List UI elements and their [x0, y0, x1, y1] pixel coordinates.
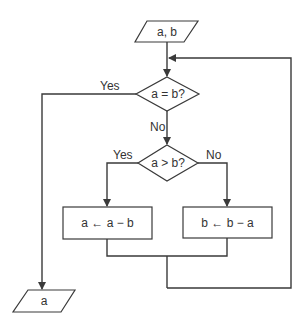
input-node: a, b [135, 21, 198, 42]
decision-greater-label: a > b? [151, 156, 185, 170]
merge-connector [107, 238, 227, 256]
process-b-node: b ← b − a [183, 207, 272, 238]
edge-label-greater-no: No [206, 148, 222, 162]
decision-equal-node: a = b? [136, 77, 199, 111]
edge-label-equal-yes: Yes [100, 79, 120, 93]
process-a-label: a ← a − b [81, 216, 134, 230]
connector-greater-no [198, 163, 227, 206]
connector-equal-yes [42, 94, 136, 289]
process-b-label: b ← b − a [201, 216, 254, 230]
connector-greater-yes [107, 163, 138, 206]
edge-label-greater-yes: Yes [113, 148, 133, 162]
decision-greater-node: a > b? [138, 145, 198, 181]
decision-equal-label: a = b? [151, 87, 185, 101]
input-label: a, b [157, 25, 177, 39]
flowchart: a, b a = b? Yes No a > b? Yes No a ← a −… [0, 0, 306, 326]
process-a-node: a ← a − b [63, 207, 152, 239]
output-node: a [13, 290, 75, 312]
edge-label-equal-no: No [150, 120, 166, 134]
output-label: a [41, 294, 48, 308]
